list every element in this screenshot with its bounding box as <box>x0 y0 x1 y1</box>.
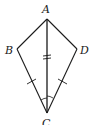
angle-arc-acb <box>41 98 47 100</box>
vertex-label-b: B <box>4 44 13 57</box>
kite-diagram: A B D C <box>0 0 95 125</box>
segment-ab <box>17 19 47 49</box>
vertex-label-d: D <box>79 44 89 57</box>
vertex-label-a: A <box>41 3 50 16</box>
angle-arc-acd <box>47 96 53 98</box>
vertex-label-c: C <box>42 117 51 125</box>
segment-ad <box>47 19 77 49</box>
